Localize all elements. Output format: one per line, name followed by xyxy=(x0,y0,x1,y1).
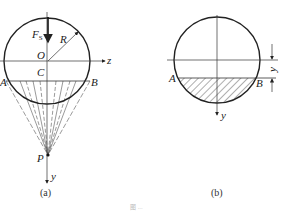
figure-b: y A B y (b) xyxy=(167,15,278,199)
figure-a: FS R O C A B z P y (a) xyxy=(0,12,112,199)
radius-label: R xyxy=(59,33,67,45)
origin-label: O xyxy=(37,49,45,61)
point-b-label: B xyxy=(91,76,98,88)
diagram-canvas: FS R O C A B z P y (a) y A B y (b) 图 ... xyxy=(0,0,288,211)
force-label: FS xyxy=(31,28,43,42)
caption-b: (b) xyxy=(211,187,223,199)
point-b-label-b: B xyxy=(256,77,263,89)
tangent-line-b xyxy=(48,81,90,155)
tangent-line-a xyxy=(6,81,48,155)
point-a-label-b: A xyxy=(168,72,176,84)
pole-point xyxy=(46,153,49,156)
y-axis-label-a: y xyxy=(50,170,56,182)
pole-label: P xyxy=(36,152,44,164)
point-a-label: A xyxy=(0,76,7,88)
caption-a: (a) xyxy=(40,187,51,199)
z-axis-label: z xyxy=(106,54,112,66)
centroid-label: C xyxy=(37,66,45,78)
dimension-label: y xyxy=(266,67,278,73)
figure-caption: 图 ... xyxy=(130,204,143,211)
y-axis-label-b: y xyxy=(220,109,226,121)
stress-fan-lines xyxy=(20,81,76,155)
